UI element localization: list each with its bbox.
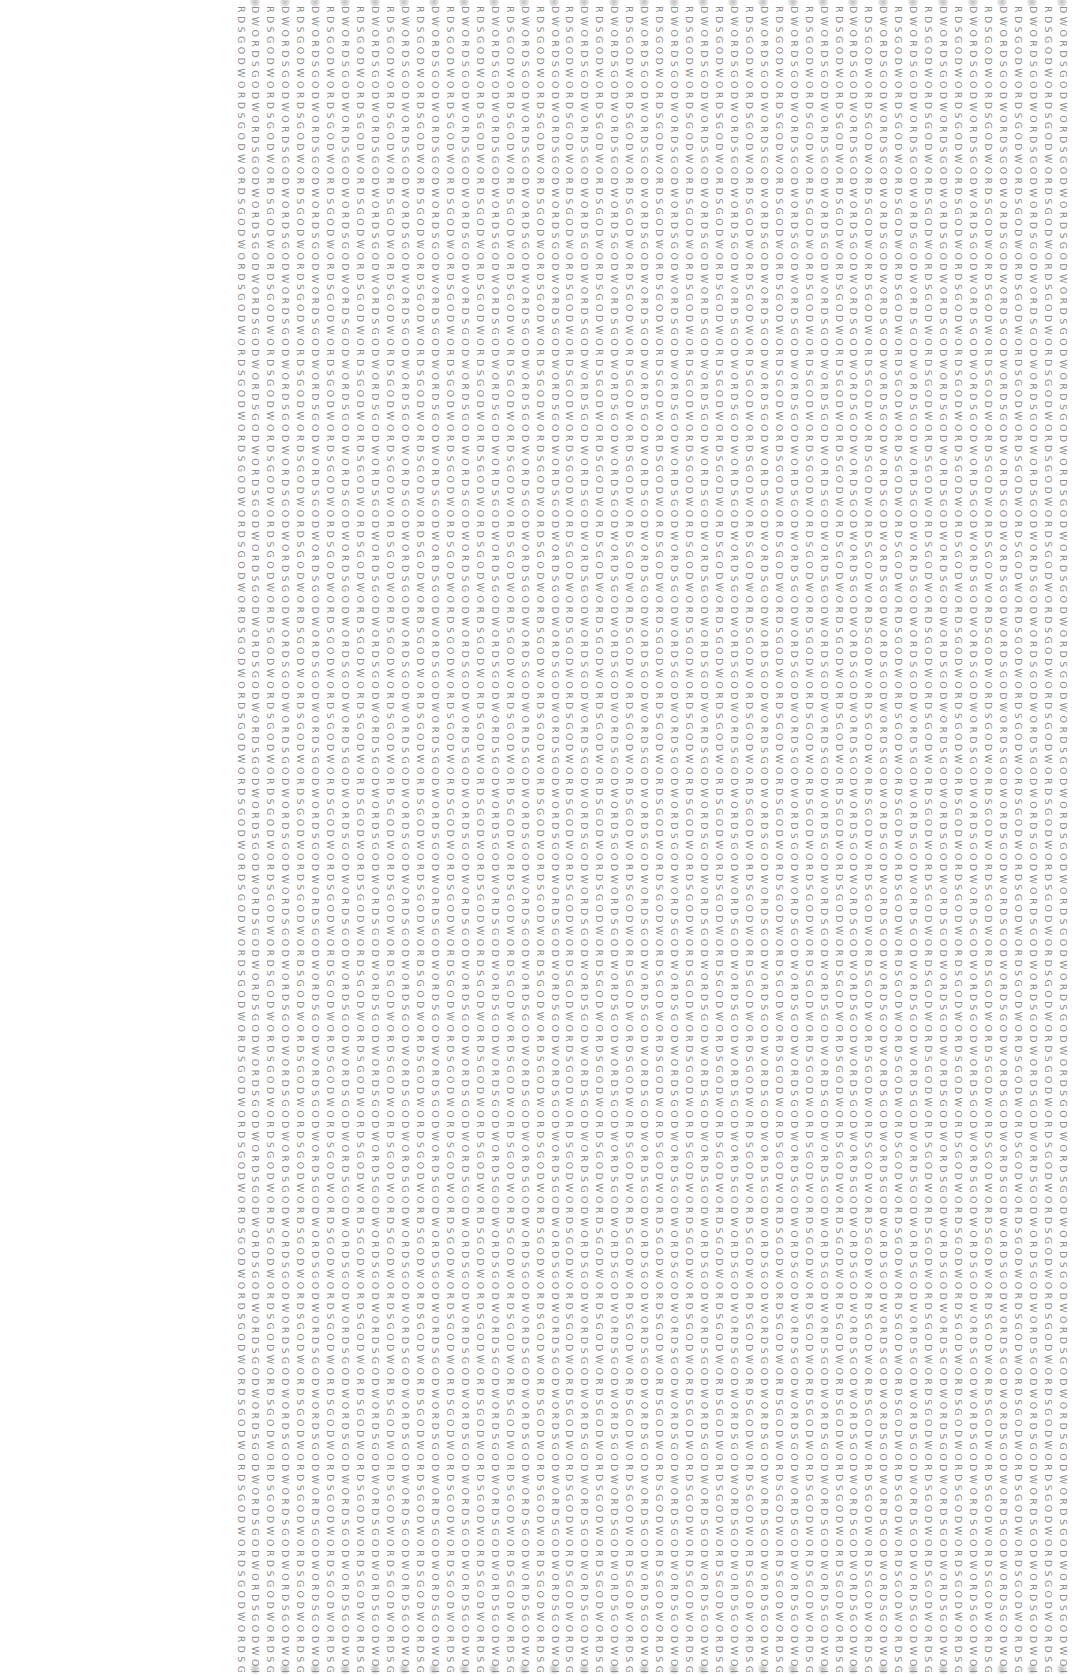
text-column: DWORDSGODWORDSGODWORDSGODWORDSGODWORDSGO… [939, 6, 949, 1672]
text-column: RDSGODWORDSGODWORDSGODWORDSGODWORDSGODWO… [356, 6, 366, 1672]
ink-smudge [489, 1664, 499, 1674]
text-column: RDSGODWORDSGODWORDSGODWORDSGODWORDSGODWO… [954, 6, 964, 1672]
ink-smudge [818, 1664, 828, 1674]
text-column: DWORDSGODWORDSGODWORDSGODWORDSGODWORDSGO… [909, 6, 919, 1672]
text-column: DWORDSGODWORDSGODWORDSGODWORDSGODWORDSGO… [371, 6, 381, 1672]
text-column: RDSGODWORDSGODWORDSGODWORDSGODWORDSGODWO… [714, 6, 724, 1672]
text-column: RDSGODWORDSGODWORDSGODWORDSGODWORDSGODWO… [894, 6, 904, 1672]
ink-smudge [250, 1664, 260, 1674]
text-column: DWORDSGODWORDSGODWORDSGODWORDSGODWORDSGO… [311, 6, 321, 1672]
ink-smudge [280, 1664, 290, 1674]
text-column: DWORDSGODWORDSGODWORDSGODWORDSGODWORDSGO… [700, 6, 710, 1672]
ink-smudge [997, 1664, 1007, 1674]
text-column: DWORDSGODWORDSGODWORDSGODWORDSGODWORDSGO… [341, 6, 351, 1672]
ink-smudge [370, 0, 380, 7]
ink-smudge [459, 1664, 469, 1674]
text-column: RDSGODWORDSGODWORDSGODWORDSGODWORDSGODWO… [505, 6, 515, 1672]
ink-smudge [848, 1664, 858, 1674]
ink-smudge [698, 1664, 708, 1674]
text-column: DWORDSGODWORDSGODWORDSGODWORDSGODWORDSGO… [879, 6, 889, 1672]
ink-smudge [968, 0, 978, 7]
ink-smudge [609, 1664, 619, 1674]
ink-smudge [728, 1664, 738, 1674]
text-column: DWORDSGODWORDSGODWORDSGODWORDSGODWORDSGO… [490, 6, 500, 1672]
text-column: RDSGODWORDSGODWORDSGODWORDSGODWORDSGODWO… [296, 6, 306, 1672]
ink-smudge [370, 1664, 380, 1674]
text-column: DWORDSGODWORDSGODWORDSGODWORDSGODWORDSGO… [520, 6, 530, 1672]
ink-smudge [1057, 1664, 1067, 1674]
text-column: DWORDSGODWORDSGODWORDSGODWORDSGODWORDSGO… [789, 6, 799, 1672]
text-column: DWORDSGODWORDSGODWORDSGODWORDSGODWORDSGO… [729, 6, 739, 1672]
ink-smudge [429, 1664, 439, 1674]
ink-smudge [938, 1664, 948, 1674]
text-column: DWORDSGODWORDSGODWORDSGODWORDSGODWORDSGO… [580, 6, 590, 1672]
text-column: RDSGODWORDSGODWORDSGODWORDSGODWORDSGODWO… [744, 6, 754, 1672]
text-column: RDSGODWORDSGODWORDSGODWORDSGODWORDSGODWO… [535, 6, 545, 1672]
ink-smudge [399, 1664, 409, 1674]
text-column: RDSGODWORDSGODWORDSGODWORDSGODWORDSGODWO… [415, 6, 425, 1672]
text-column: DWORDSGODWORDSGODWORDSGODWORDSGODWORDSGO… [281, 6, 291, 1672]
text-column: DWORDSGODWORDSGODWORDSGODWORDSGODWORDSGO… [969, 6, 979, 1672]
text-column: RDSGODWORDSGODWORDSGODWORDSGODWORDSGODWO… [565, 6, 575, 1672]
ink-smudge [579, 1664, 589, 1674]
text-column: DWORDSGODWORDSGODWORDSGODWORDSGODWORDSGO… [759, 6, 769, 1672]
text-column: RDSGODWORDSGODWORDSGODWORDSGODWORDSGODWO… [595, 6, 605, 1672]
text-column: RDSGODWORDSGODWORDSGODWORDSGODWORDSGODWO… [475, 6, 485, 1672]
ink-smudge [968, 1664, 978, 1674]
ink-smudge [1027, 1664, 1037, 1674]
text-column: RDSGODWORDSGODWORDSGODWORDSGODWORDSGODWO… [655, 6, 665, 1672]
ink-smudge [758, 1664, 768, 1674]
text-column: RDSGODWORDSGODWORDSGODWORDSGODWORDSGODWO… [236, 6, 246, 1672]
text-column: DWORDSGODWORDSGODWORDSGODWORDSGODWORDSGO… [640, 6, 650, 1672]
text-column: RDSGODWORDSGODWORDSGODWORDSGODWORDSGODWO… [1043, 6, 1053, 1672]
text-column: RDSGODWORDSGODWORDSGODWORDSGODWORDSGODWO… [1013, 6, 1023, 1672]
text-column: DWORDSGODWORDSGODWORDSGODWORDSGODWORDSGO… [400, 6, 410, 1672]
text-column: DWORDSGODWORDSGODWORDSGODWORDSGODWORDSGO… [550, 6, 560, 1672]
text-column: RDSGODWORDSGODWORDSGODWORDSGODWORDSGODWO… [864, 6, 874, 1672]
ink-smudge [310, 1664, 320, 1674]
ink-smudge [788, 1664, 798, 1674]
text-column: DWORDSGODWORDSGODWORDSGODWORDSGODWORDSGO… [1058, 6, 1068, 1672]
text-column: DWORDSGODWORDSGODWORDSGODWORDSGODWORDSGO… [849, 6, 859, 1672]
text-column: DWORDSGODWORDSGODWORDSGODWORDSGODWORDSGO… [1028, 6, 1038, 1672]
ink-smudge [519, 1664, 529, 1674]
ink-smudge [669, 1664, 679, 1674]
text-column: RDSGODWORDSGODWORDSGODWORDSGODWORDSGODWO… [386, 6, 396, 1672]
ink-smudge [878, 1664, 888, 1674]
text-column: DWORDSGODWORDSGODWORDSGODWORDSGODWORDSGO… [610, 6, 620, 1672]
text-column: DWORDSGODWORDSGODWORDSGODWORDSGODWORDSGO… [670, 6, 680, 1672]
text-column: RDSGODWORDSGODWORDSGODWORDSGODWORDSGODWO… [984, 6, 994, 1672]
text-column: RDSGODWORDSGODWORDSGODWORDSGODWORDSGODWO… [804, 6, 814, 1672]
text-column: DWORDSGODWORDSGODWORDSGODWORDSGODWORDSGO… [819, 6, 829, 1672]
ink-smudge [549, 1664, 559, 1674]
text-column: RDSGODWORDSGODWORDSGODWORDSGODWORDSGODWO… [924, 6, 934, 1672]
ink-smudge [340, 1664, 350, 1674]
text-column: RDSGODWORDSGODWORDSGODWORDSGODWORDSGODWO… [445, 6, 455, 1672]
text-column: RDSGODWORDSGODWORDSGODWORDSGODWORDSGODWO… [685, 6, 695, 1672]
text-column: DWORDSGODWORDSGODWORDSGODWORDSGODWORDSGO… [430, 6, 440, 1672]
text-column: RDSGODWORDSGODWORDSGODWORDSGODWORDSGODWO… [834, 6, 844, 1672]
ink-smudge [639, 1664, 649, 1674]
text-column: RDSGODWORDSGODWORDSGODWORDSGODWORDSGODWO… [625, 6, 635, 1672]
text-column: RDSGODWORDSGODWORDSGODWORDSGODWORDSGODWO… [774, 6, 784, 1672]
text-column: RDSGODWORDSGODWORDSGODWORDSGODWORDSGODWO… [266, 6, 276, 1672]
ink-smudge [908, 1664, 918, 1674]
text-column: DWORDSGODWORDSGODWORDSGODWORDSGODWORDSGO… [998, 6, 1008, 1672]
ink-smudge [669, 0, 679, 7]
text-column: RDSGODWORDSGODWORDSGODWORDSGODWORDSGODWO… [326, 6, 336, 1672]
text-column: DWORDSGODWORDSGODWORDSGODWORDSGODWORDSGO… [251, 6, 261, 1672]
text-column: DWORDSGODWORDSGODWORDSGODWORDSGODWORDSGO… [460, 6, 470, 1672]
